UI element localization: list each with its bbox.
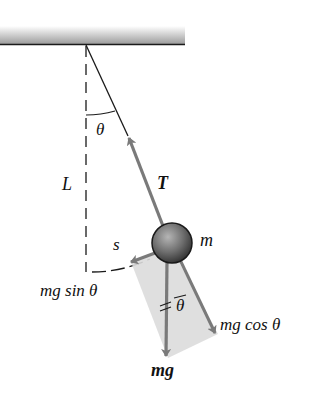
- angle-arc-top: [86, 111, 115, 115]
- pendulum-bob: [152, 223, 192, 263]
- ceiling-support: [0, 26, 185, 45]
- angle-label-bottom: θ: [176, 296, 184, 315]
- angle-label-top: θ: [96, 120, 104, 139]
- mass-label: m: [200, 230, 213, 250]
- arc-label: s: [113, 235, 120, 254]
- gravity-label: mg: [151, 360, 174, 380]
- mg-sin-theta-label: mg sin θ: [40, 281, 97, 300]
- pendulum-string: [86, 45, 128, 136]
- pendulum-diagram: θ L T m s mg sin θ θ mg cos θ mg: [0, 0, 320, 404]
- force-component-parallelogram: [131, 249, 218, 358]
- tension-label: T: [157, 173, 169, 193]
- mg-cos-theta-label: mg cos θ: [220, 315, 280, 334]
- length-label: L: [61, 174, 72, 194]
